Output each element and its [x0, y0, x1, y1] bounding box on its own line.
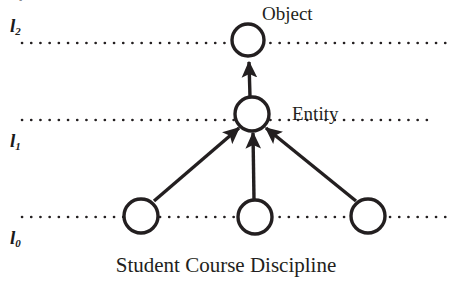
- level-lines-group: [22, 43, 446, 217]
- figure-caption: Student Course Discipline: [0, 255, 452, 276]
- node-student[interactable]: [124, 199, 158, 233]
- node-label-object: Object: [262, 4, 313, 23]
- level-label-l2: l2: [10, 16, 21, 35]
- node-object[interactable]: [232, 24, 264, 56]
- level-label-l2-subscript: 2: [15, 25, 21, 37]
- edge-student-to-entity: [154, 128, 239, 201]
- edge-discipline-to-entity: [266, 128, 356, 201]
- diagram-canvas: [0, 0, 452, 289]
- edge-course-to-entity: [253, 133, 254, 200]
- nodes-group: [124, 24, 385, 234]
- hierarchy-diagram-figure: l₃ l2 l: [0, 0, 452, 289]
- node-course[interactable]: [238, 200, 272, 234]
- level-label-l0-subscript: 0: [15, 237, 21, 249]
- node-entity[interactable]: [235, 97, 269, 131]
- level-label-l1-subscript: 1: [15, 140, 21, 152]
- node-discipline[interactable]: [351, 199, 385, 233]
- node-label-entity: Entity: [292, 104, 338, 123]
- edge-entity-to-object: [249, 62, 250, 97]
- level-label-l0: l0: [10, 228, 21, 247]
- level-label-l1: l1: [10, 131, 21, 150]
